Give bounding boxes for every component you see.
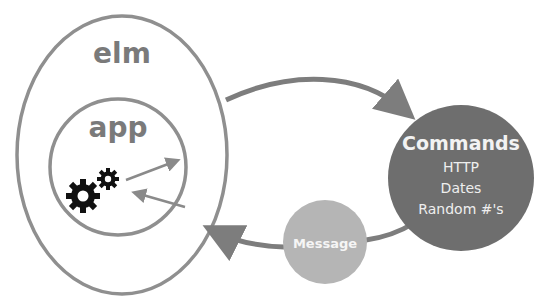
message-arrow <box>216 232 284 247</box>
commands-item-dates: Dates <box>441 180 482 196</box>
elm-label: elm <box>93 37 151 70</box>
app-label: app <box>89 111 148 144</box>
elm-architecture-diagram: elm app <box>0 0 556 301</box>
gears-icon <box>66 168 119 213</box>
commands-title: Commands <box>402 132 520 154</box>
commands-item-http: HTTP <box>443 159 479 175</box>
outgoing-arrow-small <box>126 161 176 180</box>
message-label: Message <box>293 236 357 251</box>
commands-arrow <box>226 79 404 110</box>
commands-node <box>388 105 534 251</box>
commands-item-random: Random #'s <box>418 201 503 217</box>
